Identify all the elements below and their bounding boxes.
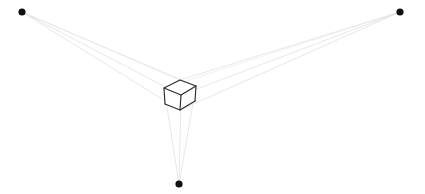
perspective-diagram: [0, 0, 425, 194]
right-vanishing-point-dot: [396, 8, 403, 15]
left-vanishing-point-dot: [18, 8, 25, 15]
bottom-vanishing-point-dot: [175, 180, 182, 187]
perspective-diagram-canvas: [0, 0, 425, 194]
